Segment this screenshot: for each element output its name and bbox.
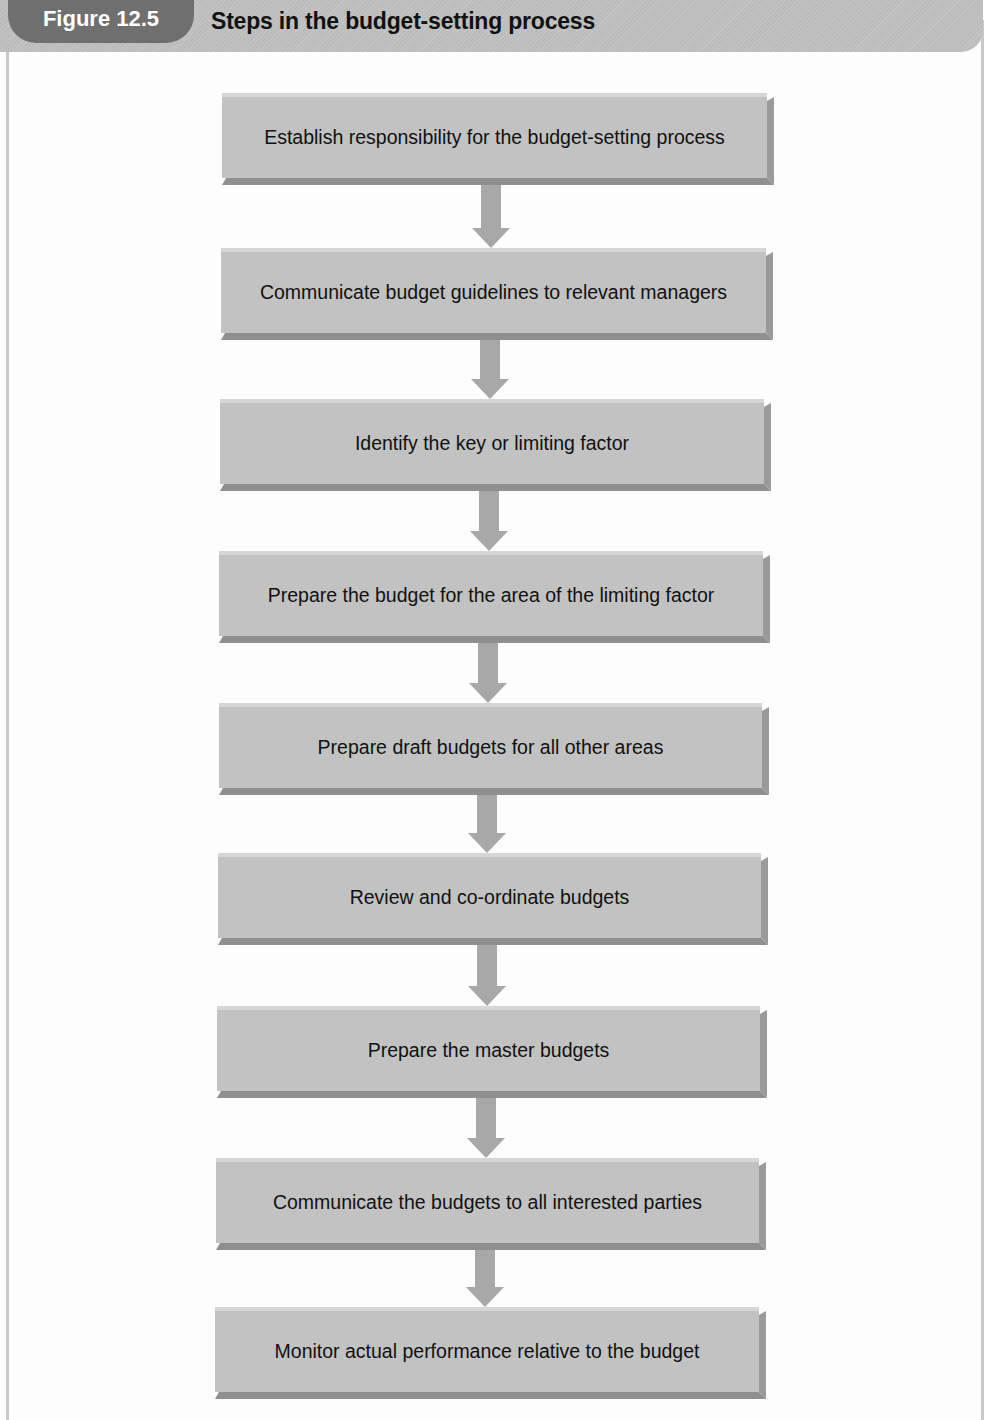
flow-step-4: Prepare the budget for the area of the l… <box>219 551 770 643</box>
flow-step-8: Communicate the budgets to all intereste… <box>216 1158 766 1250</box>
step-label: Identify the key or limiting factor <box>355 432 629 455</box>
flow-step-2: Communicate budget guidelines to relevan… <box>221 248 773 340</box>
flow-step-3: Identify the key or limiting factor <box>220 399 771 491</box>
step-label: Prepare the budget for the area of the l… <box>268 584 715 607</box>
figure-title: Steps in the budget-setting process <box>211 8 595 35</box>
step-label: Communicate budget guidelines to relevan… <box>260 281 727 304</box>
flow-step-6: Review and co-ordinate budgets <box>218 853 768 945</box>
step-label: Monitor actual performance relative to t… <box>275 1340 700 1363</box>
step-label: Establish responsibility for the budget-… <box>264 126 725 149</box>
step-label: Review and co-ordinate budgets <box>350 886 630 909</box>
flow-step-1: Establish responsibility for the budget-… <box>222 93 774 185</box>
step-label: Prepare draft budgets for all other area… <box>318 736 664 759</box>
figure-number-tab: Figure 12.5 <box>8 0 194 43</box>
flow-step-7: Prepare the master budgets <box>217 1006 767 1098</box>
flow-step-9: Monitor actual performance relative to t… <box>215 1307 766 1399</box>
figure-number: Figure 12.5 <box>43 6 159 32</box>
step-label: Communicate the budgets to all intereste… <box>273 1191 702 1214</box>
flow-step-5: Prepare draft budgets for all other area… <box>219 703 769 795</box>
step-label: Prepare the master budgets <box>368 1039 610 1062</box>
